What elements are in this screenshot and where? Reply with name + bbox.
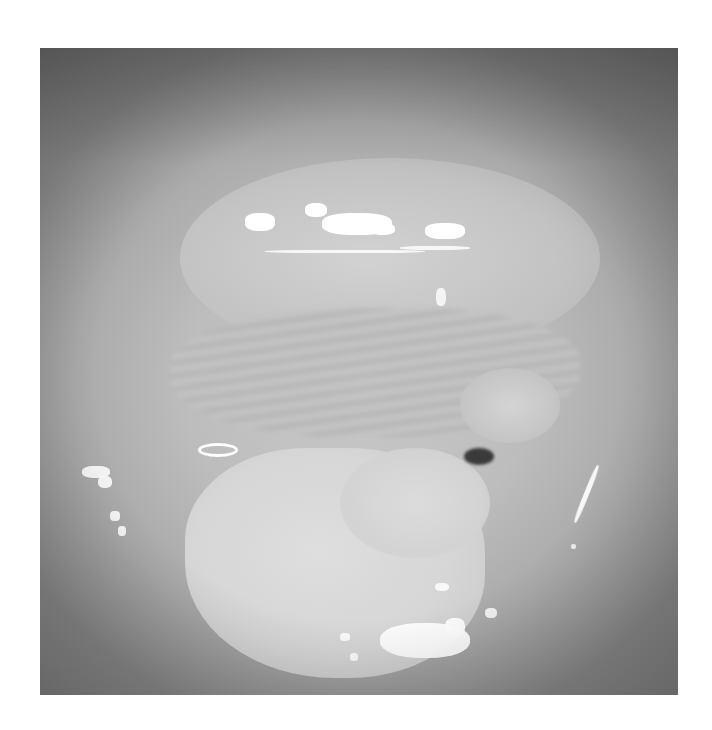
endoscopy-photo (40, 48, 678, 695)
vignette-overlay (40, 48, 678, 695)
